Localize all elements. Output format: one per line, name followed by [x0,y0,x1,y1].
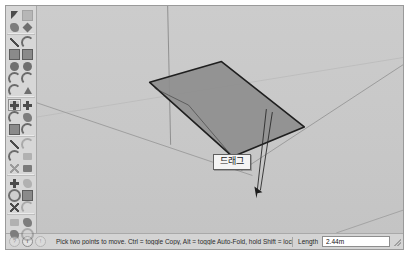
tool-button-zoom-extents[interactable] [8,201,21,213]
look-around-icon [23,218,32,227]
tool-button-line[interactable] [8,36,21,48]
tool-button-rotate[interactable] [8,111,21,123]
measurement-input[interactable] [322,236,390,247]
freehand-icon [21,36,34,49]
tool-button-protractor[interactable] [8,150,21,162]
eraser-icon [23,22,33,32]
tool-group-camera [7,175,35,214]
axes-icon [10,164,19,173]
tool-button-3-point-arc[interactable] [8,84,21,96]
scale-icon [9,124,20,135]
follow-me-icon [23,113,32,122]
tape-measure-icon [10,140,19,149]
make-component-icon [22,10,33,21]
tool-group-drawing [7,34,35,97]
tool-button-look-around[interactable] [21,216,34,228]
push-pull-icon [23,101,32,110]
arrow-select-icon [11,11,18,19]
status-message: Pick two points to move. Ctrl = toggle C… [52,238,292,245]
rotate-icon [8,111,21,124]
drag-tooltip-label: 드래그 [220,156,244,166]
rotated-rectangle-icon [22,49,33,60]
tool-button-rotated-rectangle[interactable] [21,48,34,60]
warning-icon[interactable]: ! [35,236,46,247]
tool-button-orbit[interactable] [8,177,21,189]
dimension-icon [21,138,34,151]
tool-button-zoom[interactable] [8,189,21,201]
tool-button-zoom-window[interactable] [21,189,34,201]
section-plane-icon [21,228,34,241]
position-camera-icon [10,219,19,226]
window-resize-grip[interactable] [393,238,401,246]
tool-button-2-point-arc[interactable] [21,72,34,84]
protractor-icon [8,150,21,163]
arc-icon [8,72,21,85]
vcb-divider [292,237,293,247]
viewport-canvas [37,6,403,233]
tool-button-scale[interactable] [8,123,21,135]
tool-button-pie[interactable] [21,84,34,96]
tool-button-arc[interactable] [8,72,21,84]
tool-button-pan[interactable] [21,177,34,189]
tool-button-polygon[interactable] [21,60,34,72]
tool-button-rectangle[interactable] [8,48,21,60]
tool-button-freehand[interactable] [21,36,34,48]
two-point-arc-icon [21,72,34,85]
orbit-icon [10,179,19,188]
tool-button-tape-measure[interactable] [8,138,21,150]
drag-tooltip: 드래그 [213,154,251,170]
tool-group-construction [7,136,35,175]
status-bar: ? i ! Pick two points to move. Ctrl = to… [6,233,403,249]
work-area: 드래그 [6,6,403,233]
offset-icon [21,123,34,136]
context-help-icon[interactable]: ? [9,236,20,247]
tool-button-offset[interactable] [21,123,34,135]
rectangle-icon [9,49,20,60]
tool-button-circle[interactable] [8,60,21,72]
circle-icon [10,62,19,71]
tool-button-select[interactable] [8,9,21,21]
tool-button-dimension[interactable] [21,138,34,150]
zoom-window-icon [22,190,33,201]
tool-button-text[interactable] [21,150,34,162]
model-viewport[interactable]: 드래그 [37,6,403,233]
measurement-toolbar[interactable]: Length [292,236,390,247]
paint-bucket-icon [10,23,19,32]
sketchup-window: 드래그 ? i ! Pick two points to move. Ctrl … [5,5,404,250]
tool-group-principal [7,8,35,34]
three-d-text-icon [23,165,32,172]
tool-button-paint-bucket[interactable] [8,21,21,33]
pan-icon [23,179,32,188]
tool-button-eraser[interactable] [21,21,34,33]
tool-group-modification [7,97,35,136]
tool-button-3d-text[interactable] [21,162,34,174]
measurement-label: Length [298,238,318,245]
three-point-arc-icon [8,84,21,97]
tool-button-axes[interactable] [8,162,21,174]
tool-button-follow-me[interactable] [21,111,34,123]
tool-button-section-plane[interactable] [21,228,34,240]
tool-button-make-component[interactable] [21,9,34,21]
pie-icon [24,87,32,94]
tool-button-move[interactable] [8,99,21,111]
zoom-extents-icon [10,203,19,212]
tool-button-previous-view[interactable] [21,201,34,213]
previous-view-icon [21,201,34,214]
large-tool-set-palette[interactable] [6,6,37,233]
text-label-icon [23,153,32,160]
polygon-icon [23,62,32,71]
line-icon [10,38,19,47]
move-icon [10,101,19,110]
zoom-icon [8,189,21,202]
tool-button-push-pull[interactable] [21,99,34,111]
tool-button-position-camera[interactable] [8,216,21,228]
